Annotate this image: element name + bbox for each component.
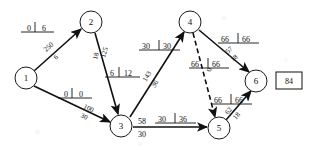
node-4-label: 4: [188, 17, 193, 27]
diagram-canvas: 0 6 6 12 0 0 30 30 66 66: [0, 0, 311, 150]
edge-value-3-5-lower: 30: [138, 130, 146, 139]
pair-left-2-3: 6: [110, 69, 114, 78]
node-1-label: 1: [24, 73, 29, 83]
node-5-label: 5: [217, 123, 222, 133]
edge-1-2: [34, 29, 81, 71]
pair-label-edge-4-6: 66 66: [218, 33, 259, 44]
pair-labels-group: 0 6 6 12 0 0 30 30 66 66: [21, 22, 259, 124]
total-value-box: 84: [276, 72, 302, 89]
pair-right-4-6: 66: [242, 35, 250, 44]
pair-left-3-5: 30: [158, 115, 166, 124]
node-2[interactable]: 2: [80, 11, 102, 33]
node-2-label: 2: [89, 17, 94, 27]
node-3-label: 3: [119, 121, 124, 131]
pair-left-1-2: 0: [27, 24, 31, 33]
node-4[interactable]: 4: [179, 11, 201, 33]
node-6[interactable]: 6: [245, 70, 267, 92]
edge-3-4: [130, 32, 184, 117]
edge-value-1-3-lower: 30: [79, 112, 89, 122]
edge-value-1-2-upper: 250: [42, 40, 56, 53]
pair-left-3-4: 30: [142, 42, 150, 51]
node-6-label: 6: [254, 76, 259, 86]
pair-label-edge-4-5: 66 66: [189, 58, 229, 69]
edge-value-3-5-upper: 58: [138, 117, 146, 126]
pair-left-4-5: 66: [191, 60, 199, 69]
pair-label-edge-1-3: 0 0: [58, 88, 92, 99]
node-3[interactable]: 3: [110, 115, 132, 137]
edge-value-3-4-lower: 36: [150, 78, 161, 89]
edge-2-3: [95, 33, 118, 114]
pair-label-edge-1-2: 0 6: [21, 22, 54, 33]
pair-right-3-5: 36: [179, 115, 187, 124]
pair-right-5-6: 66: [235, 96, 243, 105]
pair-right-1-3: 0: [79, 90, 83, 99]
node-1[interactable]: 1: [15, 67, 37, 89]
pair-left-1-3: 0: [64, 90, 68, 99]
edge-4-5: [193, 33, 215, 117]
pair-label-edge-3-5: 30 36: [155, 113, 196, 124]
edge-value-1-2-lower: 6: [52, 53, 60, 62]
node-5[interactable]: 5: [208, 117, 230, 139]
edge-value-2-3-upper: 125: [99, 46, 110, 59]
pair-right-4-5: 66: [212, 60, 220, 69]
total-value-label: 84: [285, 77, 293, 86]
pair-left-4-6: 66: [221, 35, 229, 44]
pair-label-edge-2-3: 6 12: [105, 67, 140, 78]
pair-right-2-3: 12: [124, 69, 132, 78]
pair-left-5-6: 66: [214, 96, 222, 105]
pair-right-3-4: 30: [163, 42, 171, 51]
pair-right-1-2: 6: [42, 24, 46, 33]
